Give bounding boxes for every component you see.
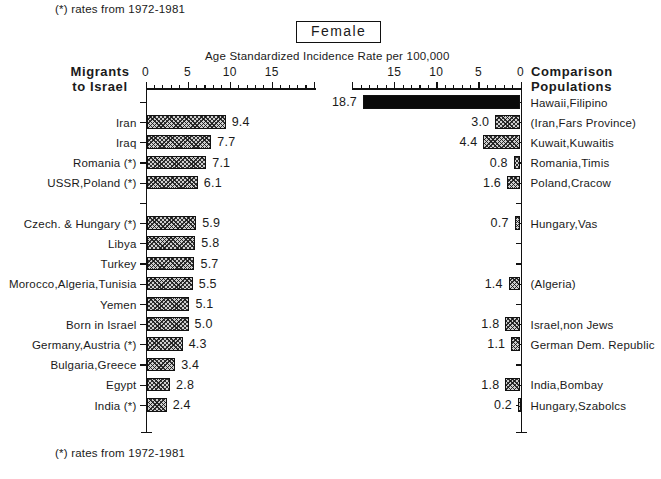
right-row-label: Poland,Cracow [531, 177, 612, 190]
right-bar-value: 1.8 [415, 379, 499, 392]
left-tick-1 [154, 85, 155, 89]
right-tick-20 [352, 82, 353, 88]
right-row-label: Romania,Timis [531, 157, 610, 170]
left-bar-value: 5.1 [195, 298, 213, 311]
right-bar [509, 277, 521, 291]
left-tick-2 [162, 85, 163, 89]
right-row-label: Israel,non Jews [531, 319, 614, 332]
left-bar-value: 7.1 [212, 157, 230, 170]
left-row-label: Turkey [0, 258, 137, 271]
left-row-label: Egypt [0, 379, 137, 392]
left-row-label: Romania (*) [0, 157, 137, 170]
right-row-label: (Iran,Fars Province) [531, 117, 637, 130]
left-row-label: India (*) [0, 400, 137, 413]
left-row-label: Libya [0, 238, 137, 251]
right-column-header: Comparison Populations [531, 64, 613, 94]
left-row-tick [140, 162, 146, 163]
right-axis-line [352, 88, 522, 90]
right-bar [518, 398, 521, 412]
right-bar [511, 337, 520, 351]
right-bar-value: 0.2 [428, 399, 512, 412]
left-row-tick [140, 243, 146, 244]
right-tick-9 [445, 85, 446, 89]
left-bar-value: 9.4 [232, 116, 250, 129]
right-tick-6 [470, 85, 471, 89]
right-tick-2 [504, 85, 505, 89]
right-tick-8 [453, 85, 454, 89]
right-tick-0 [521, 82, 522, 88]
right-tick-16 [386, 85, 387, 89]
left-bar [147, 398, 167, 412]
left-bar [147, 257, 195, 271]
right-tick-5 [478, 82, 479, 88]
left-row-label: Iraq [0, 137, 137, 150]
left-bar [147, 115, 226, 129]
right-row-label: German Dem. Republic [531, 339, 655, 352]
right-bar-value: 0.8 [424, 157, 508, 170]
left-tick-20 [314, 82, 315, 88]
right-bar [515, 216, 521, 230]
right-tick-10 [436, 82, 437, 88]
left-axis-line [146, 88, 316, 90]
chart-title: Female [296, 21, 381, 43]
left-tick-4 [179, 85, 180, 89]
right-tick-3 [495, 85, 496, 89]
left-bar-value: 5.7 [200, 258, 218, 271]
right-row-label: India,Bombay [531, 379, 604, 392]
right-bar [495, 115, 520, 129]
right-tick-7 [462, 85, 463, 89]
left-bar-value: 7.7 [217, 136, 235, 149]
right-row-tick [516, 263, 522, 264]
left-tick-7 [204, 85, 205, 89]
left-bar-value: 2.8 [176, 379, 194, 392]
left-row-label: USSR,Poland (*) [0, 177, 137, 190]
left-tick-18 [297, 85, 298, 89]
left-tick-16 [280, 85, 281, 89]
left-bar-value: 4.3 [189, 338, 207, 351]
left-tick-12 [247, 85, 248, 89]
left-bar-value: 5.5 [199, 278, 217, 291]
right-tick-19 [361, 85, 362, 89]
left-bar [147, 337, 183, 351]
right-tick-label-15: 15 [379, 65, 409, 79]
left-row-tick [140, 385, 146, 386]
right-row-tick [516, 243, 522, 244]
right-tick-11 [428, 85, 429, 89]
left-column-header-line2: to Israel [56, 79, 144, 94]
right-bar [505, 378, 520, 392]
left-bar [147, 156, 207, 170]
left-bar-value: 5.0 [195, 318, 213, 331]
right-row-tick [516, 364, 522, 365]
left-tick-3 [171, 85, 172, 89]
left-row-label: Czech. & Hungary (*) [0, 218, 137, 231]
left-tick-0 [146, 82, 147, 88]
right-row-label: (Algeria) [531, 278, 576, 291]
left-row-tick [140, 364, 146, 365]
left-row-label: Germany,Austria (*) [0, 339, 137, 352]
right-bar-value: 4.4 [393, 136, 477, 149]
left-bar [147, 216, 197, 230]
left-bar [147, 135, 212, 149]
right-column-header-line2: Populations [531, 79, 613, 94]
right-axis-bottom-cap [516, 432, 527, 433]
right-axis-vertical [521, 88, 523, 432]
left-tick-13 [255, 85, 256, 89]
left-bar [147, 378, 171, 392]
right-tick-15 [394, 82, 395, 88]
left-bar [147, 176, 198, 190]
left-tick-9 [221, 85, 222, 89]
left-row-tick [140, 324, 146, 325]
figure-canvas: (*) rates from 1972-1981 Female Age Stan… [0, 0, 661, 479]
left-tick-15 [272, 82, 273, 88]
left-row-tick [140, 183, 146, 184]
left-row-label: Morocco,Algeria,Tunisia [0, 278, 137, 291]
left-bar-value: 3.4 [181, 359, 199, 372]
left-row-tick [140, 102, 146, 103]
left-bar [147, 277, 193, 291]
left-bar-value: 5.9 [202, 217, 220, 230]
right-column-header-line1: Comparison [531, 64, 613, 79]
left-row-tick [140, 263, 146, 264]
left-bar [147, 358, 176, 372]
note-bottom: (*) rates from 1972-1981 [55, 447, 185, 459]
right-tick-14 [403, 85, 404, 89]
